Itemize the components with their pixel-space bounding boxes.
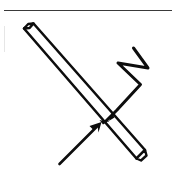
zigzag-arrow-shaft <box>106 48 148 121</box>
line-drawing <box>0 0 176 181</box>
straight-arrow-shaft <box>60 127 98 165</box>
figure-canvas <box>0 0 176 181</box>
straight-arrow-group <box>60 122 102 164</box>
